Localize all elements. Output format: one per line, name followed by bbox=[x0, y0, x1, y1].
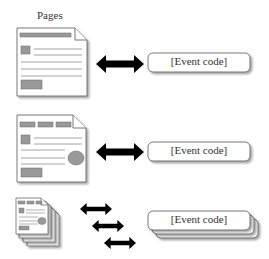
event-code-label-3: [Event code] bbox=[148, 213, 250, 225]
event-code-label-1: [Event code] bbox=[148, 55, 250, 67]
bidirectional-arrow-icon-3c bbox=[104, 237, 136, 249]
bidirectional-arrow-icon-1 bbox=[96, 55, 144, 73]
stacked-pages-icon bbox=[16, 198, 59, 246]
event-code-label-2: [Event code] bbox=[148, 144, 250, 156]
bidirectional-arrow-icon-3b bbox=[92, 220, 124, 232]
bidirectional-arrow-icon-3a bbox=[80, 203, 112, 215]
bidirectional-arrow-icon-2 bbox=[96, 143, 144, 161]
